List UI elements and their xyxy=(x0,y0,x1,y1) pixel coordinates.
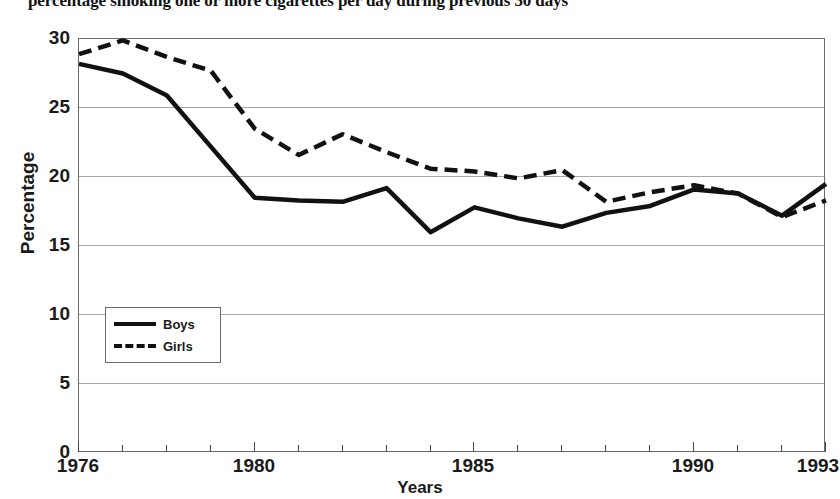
x-tickmark-1982 xyxy=(342,445,343,452)
x-tickmark-1990 xyxy=(693,442,694,452)
x-axis-label: Years xyxy=(0,478,840,498)
x-tickmark-1979 xyxy=(210,445,211,452)
figure-title: percentage smoking one or more cigarette… xyxy=(28,0,818,10)
series-lines xyxy=(79,39,826,453)
x-tickmark-1991 xyxy=(737,445,738,452)
x-tickmark-1977 xyxy=(122,445,123,452)
y-tick-5: 5 xyxy=(12,372,70,394)
smoking-prevalence-figure: percentage smoking one or more cigarette… xyxy=(0,0,840,499)
x-tickmark-1983 xyxy=(386,445,387,452)
y-tick-25: 25 xyxy=(12,96,70,118)
x-tickmark-1992 xyxy=(781,445,782,452)
x-tick-1976: 1976 xyxy=(57,455,99,477)
x-tick-1980: 1980 xyxy=(233,455,275,477)
x-tickmark-1984 xyxy=(430,445,431,452)
x-tick-1993: 1993 xyxy=(797,455,839,477)
x-tickmark-1993 xyxy=(825,442,826,452)
series-line-boys xyxy=(79,64,826,232)
x-tickmark-1987 xyxy=(561,445,562,452)
y-axis-label: Percentage xyxy=(17,133,39,273)
x-tickmark-1981 xyxy=(298,445,299,452)
plot-area: Boys Girls xyxy=(78,38,825,452)
series-line-girls xyxy=(79,40,826,217)
x-tickmark-1989 xyxy=(649,445,650,452)
x-tickmark-1980 xyxy=(254,442,255,452)
x-tickmark-1976 xyxy=(78,442,79,452)
x-tickmark-1978 xyxy=(166,445,167,452)
x-tick-1985: 1985 xyxy=(452,455,494,477)
x-tickmark-1986 xyxy=(517,445,518,452)
x-tickmark-1985 xyxy=(473,442,474,452)
y-tick-30: 30 xyxy=(12,27,70,49)
x-tick-1990: 1990 xyxy=(672,455,714,477)
y-tick-10: 10 xyxy=(12,303,70,325)
x-tickmark-1988 xyxy=(605,445,606,452)
